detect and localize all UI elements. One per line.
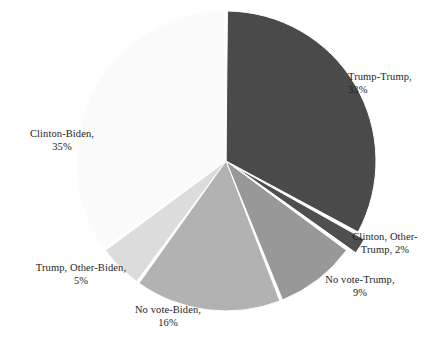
slice-label-no-vote-biden-line1: No vote-Biden,	[118, 303, 218, 316]
slice-label-trump-trump-value: 33%	[348, 83, 432, 96]
slice-label-no-vote-biden-value: 16%	[118, 316, 218, 329]
slice-label-no-vote-trump-line1: No vote-Trump,	[312, 273, 408, 286]
slice-label-clinton-biden-line1: Clinton-Biden,	[12, 127, 112, 140]
slice-label-trump-trump: Trump-Trump, 33%	[348, 70, 432, 96]
slice-label-clinton-other-trump: Clinton, Other- Trump, 2%	[336, 230, 434, 256]
slice-label-trump-trump-line1: Trump-Trump,	[348, 70, 432, 83]
slice-label-trump-other-biden-value: 5%	[22, 274, 140, 287]
slice-label-trump-other-biden-line1: Trump, Other-Biden,	[22, 261, 140, 274]
slice-label-clinton-other-trump-line1: Clinton, Other-	[336, 230, 434, 243]
slice-label-no-vote-biden: No vote-Biden, 16%	[118, 303, 218, 329]
slice-label-clinton-other-trump-value: Trump, 2%	[336, 243, 434, 256]
slice-label-clinton-biden: Clinton-Biden, 35%	[12, 127, 112, 153]
slice-label-trump-other-biden: Trump, Other-Biden, 5%	[22, 261, 140, 287]
pie-chart-page: Trump-Trump, 33% Clinton, Other- Trump, …	[0, 0, 434, 344]
slice-label-no-vote-trump: No vote-Trump, 9%	[312, 273, 408, 299]
slice-label-clinton-biden-value: 35%	[12, 140, 112, 153]
slice-label-no-vote-trump-value: 9%	[312, 286, 408, 299]
